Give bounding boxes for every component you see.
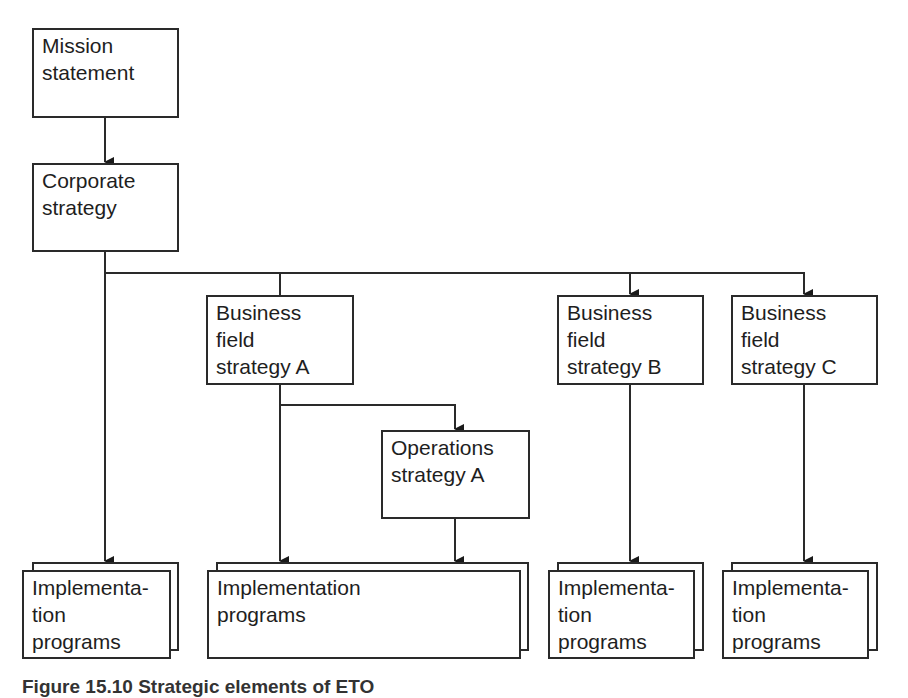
figure-caption: Figure 15.10 Strategic elements of ETO	[22, 676, 374, 698]
business-field-strategy-a-box: Business field strategy A	[206, 295, 354, 385]
business-field-strategy-b-box: Business field strategy B	[557, 295, 704, 385]
implementation-programs-2-box: Implementation programs	[207, 570, 521, 659]
node-label: programs	[32, 628, 161, 655]
node-label: strategy A	[216, 353, 344, 380]
arrow-bfs-a-to-ops-a	[280, 405, 455, 429]
implementation-programs-1-box: Implementa- tion programs	[22, 570, 171, 659]
node-label: field	[741, 326, 868, 353]
node-label: strategy	[42, 194, 169, 221]
node-label: field	[567, 326, 694, 353]
node-label: tion	[558, 601, 685, 628]
node-label: tion	[32, 601, 161, 628]
node-label: Operations	[391, 434, 520, 461]
node-label: programs	[558, 628, 685, 655]
node-label: Business	[741, 299, 868, 326]
node-label: Implementa-	[32, 574, 161, 601]
corporate-strategy-box: Corporate strategy	[32, 163, 179, 252]
node-label: tion	[732, 601, 859, 628]
implementation-programs-4-box: Implementa- tion programs	[722, 570, 869, 659]
node-label: Implementa-	[732, 574, 859, 601]
node-label: strategy A	[391, 461, 520, 488]
mission-statement-box: Mission statement	[32, 28, 179, 118]
node-label: Mission	[42, 32, 169, 59]
node-label: Implementation	[217, 574, 511, 601]
operations-strategy-a-box: Operations strategy A	[381, 430, 530, 519]
node-label: strategy B	[567, 353, 694, 380]
node-label: strategy C	[741, 353, 868, 380]
node-label: Business	[216, 299, 344, 326]
node-label: Implementa-	[558, 574, 685, 601]
node-label: Business	[567, 299, 694, 326]
node-label: field	[216, 326, 344, 353]
node-label: programs	[732, 628, 859, 655]
node-label: programs	[217, 601, 511, 628]
implementation-programs-3-box: Implementa- tion programs	[548, 570, 695, 659]
node-label: statement	[42, 59, 169, 86]
node-label: Corporate	[42, 167, 169, 194]
business-field-strategy-c-box: Business field strategy C	[731, 295, 878, 385]
